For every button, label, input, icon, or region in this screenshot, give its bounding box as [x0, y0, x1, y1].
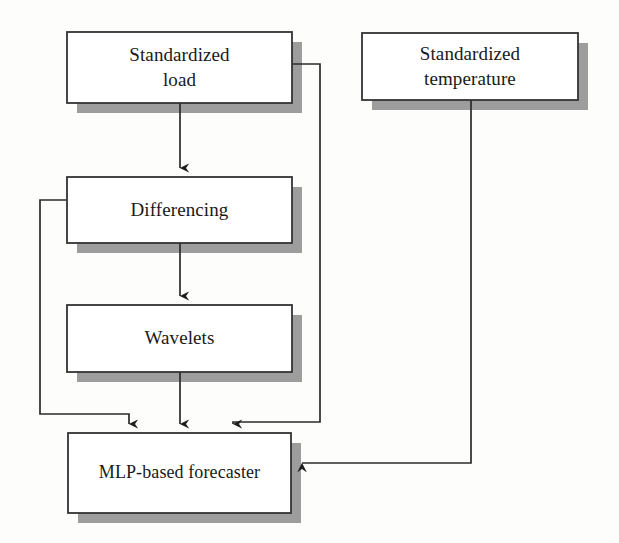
edge-temperature-to-forecaster — [302, 100, 471, 463]
flowchart-canvas — [0, 0, 619, 543]
box-differencing[interactable] — [67, 177, 292, 243]
connectors — [40, 64, 471, 463]
flowchart-diagram: Standardized load Standardized temperatu… — [0, 0, 619, 543]
box-standardized-temperature[interactable] — [362, 33, 578, 100]
box-mlp-based-forecaster[interactable] — [68, 433, 291, 513]
box-standardized-load[interactable] — [67, 32, 292, 103]
box-wavelets[interactable] — [67, 305, 292, 372]
